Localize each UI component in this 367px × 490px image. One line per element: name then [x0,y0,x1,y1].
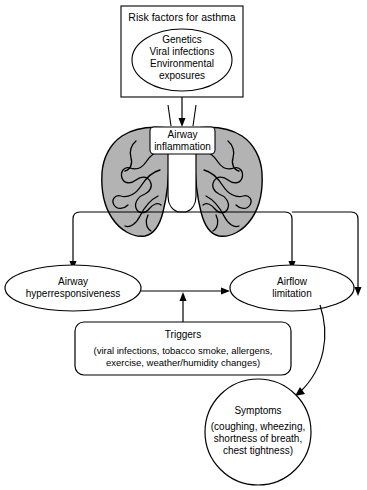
hyperresponsiveness-line2: hyperresponsiveness [26,288,121,299]
hyperresponsiveness-line1: Airway [58,276,88,287]
triggers-line2: exercise, weather/humidity changes) [106,357,260,368]
risk-factor-environmental: Environmental [150,58,214,69]
triggers-line1: (viral infections, tobacco smoke, allerg… [94,345,273,356]
airway-inflammation-line2: inflammation [154,141,211,152]
risk-factor-genetics: Genetics [162,34,201,45]
risk-factors-title: Risk factors for asthma [128,11,236,23]
airflow-limitation-line1: Airflow [277,276,308,287]
asthma-pathophysiology-diagram: Risk factors for asthma Genetics Viral i… [0,0,367,490]
risk-factor-viral-infections: Viral infections [150,46,215,57]
airway-inflammation-line1: Airway [167,129,197,140]
triggers-title: Triggers [165,329,201,340]
central-airway [168,150,196,212]
risk-factor-exposures: exposures [159,70,205,81]
airflow-limitation-line2: limitation [272,288,311,299]
symptoms-node [205,379,311,485]
symptoms-line1: (coughing, wheezing, [211,421,306,432]
symptoms-line3: chest tightness) [223,445,293,456]
symptoms-title: Symptoms [234,405,281,416]
symptoms-line2: shortness of breath, [214,433,302,444]
